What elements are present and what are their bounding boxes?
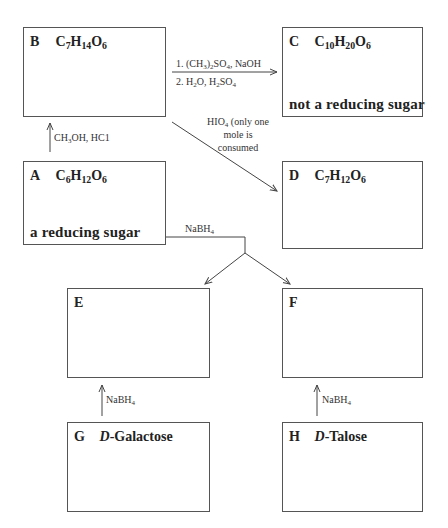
reagent-b-to-d-line2: mole is (198, 128, 278, 141)
box-d: D C7H12O6 (282, 161, 423, 249)
box-c-formula: C10H20O6 (315, 34, 371, 49)
reagent-h-to-f: NaBH4 (322, 393, 351, 406)
reagent-b-to-c-step2: 2. H2O, H2SO4 (176, 75, 236, 88)
box-c-footer: not a reducing sugar (289, 96, 425, 113)
box-f: F (282, 288, 423, 378)
box-d-formula: C7H12O6 (315, 168, 367, 183)
box-c-letter: C (289, 34, 311, 50)
box-g: G D-Galactose (67, 422, 210, 512)
box-h-name: D-Talose (315, 429, 367, 444)
box-b-formula: C7H14O6 (56, 34, 108, 49)
box-b-header: B C7H14O6 (30, 34, 107, 50)
box-e-header: E (74, 295, 96, 311)
box-g-name: D-Galactose (100, 429, 173, 444)
box-d-letter: D (289, 168, 311, 184)
box-c: C C10H20O6 not a reducing sugar (282, 27, 423, 117)
box-f-letter: F (289, 295, 311, 311)
arrow-a-to-split (166, 237, 245, 253)
reagent-b-to-d-line1: HIO4 (only one (198, 115, 278, 128)
reagent-b-to-d: HIO4 (only one mole is consumed (198, 115, 278, 154)
reagent-b-to-c-step1: 1. (CH3)2SO4, NaOH (176, 57, 261, 70)
box-h-header: H D-Talose (289, 429, 367, 445)
box-a-formula: C6H12O6 (56, 168, 108, 183)
box-e-letter: E (74, 295, 96, 311)
box-g-header: G D-Galactose (74, 429, 173, 445)
box-a-letter: A (30, 168, 52, 184)
box-d-header: D C7H12O6 (289, 168, 366, 184)
box-e: E (67, 288, 210, 378)
box-f-header: F (289, 295, 311, 311)
box-a-footer: a reducing sugar (30, 224, 140, 241)
arrow-split-to-f (245, 253, 290, 284)
box-b-letter: B (30, 34, 52, 50)
box-a: A C6H12O6 a reducing sugar (23, 161, 166, 245)
reagent-g-to-e: NaBH4 (106, 393, 135, 406)
box-g-letter: G (74, 429, 96, 445)
box-h-letter: H (289, 429, 311, 445)
reagent-a-to-b: CH3OH, HC1 (54, 131, 110, 144)
arrow-split-to-e (205, 253, 245, 284)
reagent-a-to-ef: NaBH4 (185, 222, 214, 235)
box-h: H D-Talose (282, 422, 423, 512)
reagent-b-to-d-line3: consumed (198, 141, 278, 154)
box-a-header: A C6H12O6 (30, 168, 107, 184)
box-c-header: C C10H20O6 (289, 34, 371, 50)
box-b: B C7H14O6 (23, 27, 166, 117)
